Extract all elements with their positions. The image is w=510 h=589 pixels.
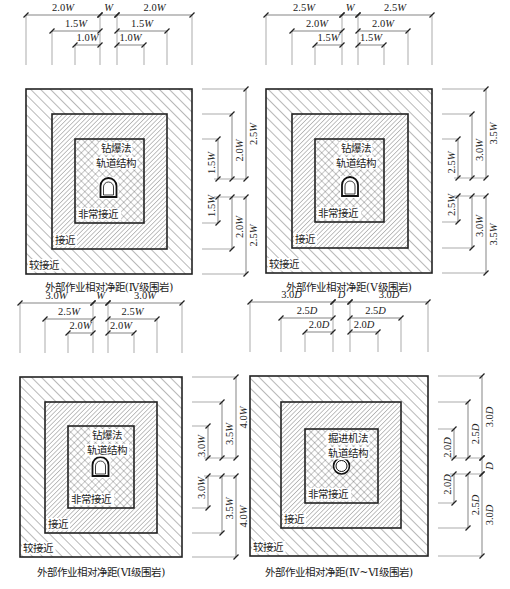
zone-label-very-close: 非常接近 (71, 493, 112, 505)
top-dim-inner-right: 1.5W (360, 32, 383, 43)
top-dim-center: W (96, 290, 106, 301)
side-dim-inner-bottom: 3.0W (196, 476, 207, 499)
side-dim-middle-top: 2.5D (470, 423, 481, 444)
side-dim-outer-top: 3.5W (488, 121, 499, 144)
top-dim-center: D (337, 289, 346, 300)
top-dim-middle-right: 2.5D (365, 305, 386, 316)
top-dim-middle-right: 1.5W (131, 18, 154, 29)
top-dim-outer-left: 3.0D (281, 289, 302, 300)
zone-label-fairly-close: 较接近 (269, 258, 300, 270)
top-dim-outer-left: 2.5W (293, 2, 316, 13)
side-dim-outer-top: 4.0W (238, 405, 249, 428)
top-dim-inner-left: 2.0D (309, 319, 330, 330)
side-dim-middle-bottom: 2.5D (470, 494, 481, 515)
construction-method-label: 钻爆法 (101, 142, 131, 154)
zone-label-fairly-close: 较接近 (23, 542, 54, 554)
side-dim-inner-top: 2.5W (446, 150, 457, 173)
top-dim-middle-left: 2.5D (297, 305, 318, 316)
side-dim-middle-bottom: 3.0W (474, 214, 485, 237)
top-dim-middle-right: 2.5W (122, 306, 145, 317)
track-structure-label: 轨道结构 (328, 447, 368, 459)
side-dim-middle-bottom: 2.0W (234, 215, 245, 238)
top-dim-middle-right: 2.0W (372, 18, 395, 29)
top-dim-center: W (104, 2, 114, 13)
top-dim-outer-right: 3.0D (379, 289, 400, 300)
side-dim-inner-bottom: 2.0D (442, 474, 453, 495)
zone-label-close: 接近 (48, 518, 69, 530)
top-dim-outer-right: 2.0W (144, 2, 167, 13)
zone-label-close: 接近 (55, 234, 76, 246)
top-dim-outer-right: 2.5W (384, 2, 407, 13)
side-dim-inner-bottom: 2.5W (446, 193, 457, 216)
tunnel-bg (340, 176, 360, 198)
tunnel-bg (333, 457, 351, 475)
top-dim-inner-right: 2.0D (354, 319, 375, 330)
top-dim-outer-left: 3.0W (46, 290, 69, 301)
zone-label-very-close: 非常接近 (318, 207, 359, 219)
side-dim-middle-top: 3.0W (474, 138, 485, 161)
side-dim-outer-top: 3.0D (484, 406, 495, 427)
side-dim-middle-bottom: 3.5W (224, 496, 235, 519)
construction-method-label: 掘进机法 (328, 432, 368, 444)
top-dim-inner-left: 2.0W (70, 320, 93, 331)
top-dim-outer-left: 2.0W (52, 2, 75, 13)
top-dim-middle-left: 2.0W (306, 18, 329, 29)
side-dim-inner-top: 1.5W (206, 151, 217, 174)
top-dim-middle-left: 1.5W (65, 18, 88, 29)
zone-label-close: 接近 (284, 513, 305, 525)
side-dim-inner-top: 3.0W (196, 434, 207, 457)
side-dim-center: D (484, 462, 495, 471)
panel-v: 钻爆法轨道结构非常接近接近较接近2.5WW2.5W2.0W2.0W1.5W1.5… (264, 2, 500, 293)
side-dim-outer-bottom: 4.0W (238, 504, 249, 527)
side-dim-middle-top: 3.5W (224, 422, 235, 445)
zone-label-fairly-close: 较接近 (253, 541, 284, 553)
top-dim-inner-right: 1.0W (120, 32, 143, 43)
top-dim-center: W (346, 2, 356, 13)
side-dim-outer-bottom: 2.5W (248, 223, 259, 246)
panel-caption: 外部作业相对净距(Ⅳ~Ⅵ级围岩) (265, 566, 413, 578)
side-dim-inner-top: 2.0D (442, 437, 453, 458)
construction-method-label: 钻爆法 (341, 142, 371, 154)
side-dim-outer-bottom: 3.0D (484, 504, 495, 525)
side-dim-outer-top: 2.5W (248, 122, 259, 145)
zone-label-very-close: 非常接近 (78, 208, 119, 220)
clearance-diagram-figure: 钻爆法轨道结构非常接近接近较接近2.0WW2.0W1.5W1.5W1.0W1.0… (0, 0, 510, 589)
side-dim-inner-bottom: 1.5W (206, 194, 217, 217)
construction-method-label: 钻爆法 (92, 429, 122, 441)
top-dim-inner-right: 2.0W (110, 320, 133, 331)
tunnel-bg (91, 456, 111, 478)
zone-label-close: 接近 (295, 233, 316, 245)
track-structure-label: 轨道结构 (96, 157, 136, 169)
zone-label-very-close: 非常接近 (308, 488, 349, 500)
panel-caption: 外部作业相对净距(Ⅵ级围岩) (37, 566, 166, 578)
panel-iv: 钻爆法轨道结构非常接近接近较接近2.0WW2.0W1.5W1.5W1.0W1.0… (24, 2, 260, 293)
top-dim-inner-left: 1.5W (318, 32, 341, 43)
side-dim-outer-bottom: 3.5W (488, 222, 499, 245)
side-dim-middle-top: 2.0W (234, 138, 245, 161)
zone-label-fairly-close: 较接近 (29, 259, 60, 271)
top-dim-outer-right: 3.0W (134, 290, 157, 301)
track-structure-label: 轨道结构 (87, 444, 127, 456)
track-structure-label: 轨道结构 (336, 157, 376, 169)
tunnel-bg (99, 177, 119, 199)
top-dim-inner-left: 1.0W (77, 32, 100, 43)
panel-vi: 钻爆法轨道结构非常接近接近较接近3.0WW3.0W2.5W2.5W2.0W2.0… (18, 290, 250, 578)
panel-iv-vi: 掘进机法轨道结构非常接近接近较接近3.0DD3.0D2.5D2.5D2.0D2.… (248, 289, 496, 578)
top-dim-middle-left: 2.5W (58, 306, 81, 317)
